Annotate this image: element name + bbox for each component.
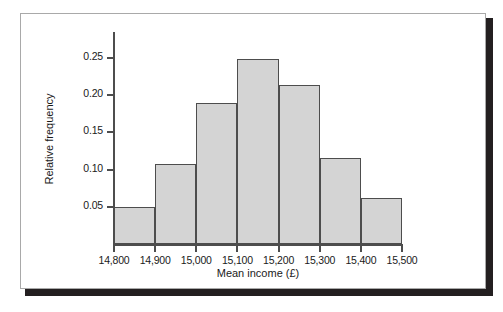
x-axis-tick: 15,500 [401,246,403,252]
histogram-bar [155,164,196,244]
x-axis-tick: 15,100 [236,246,238,252]
y-axis-tick: 0.10 [107,169,113,171]
x-axis-tick-label: 15,300 [304,254,335,266]
y-axis-tick-label: 0.15 [83,124,103,136]
histogram-bar [196,103,237,244]
y-axis-tick-label: 0.05 [83,199,103,211]
x-axis-tick-label: 14,800 [99,254,130,266]
y-axis-tick: 0.20 [107,94,113,96]
histogram-bar [361,198,402,244]
x-axis-tick: 14,800 [113,246,115,252]
x-axis-tick-label: 14,900 [140,254,171,266]
x-axis-tick-label: 15,000 [181,254,212,266]
y-axis-tick: 0.25 [107,57,113,59]
histogram-bar [114,207,155,244]
x-axis-tick: 15,300 [319,246,321,252]
x-axis-tick-label: 15,200 [263,254,294,266]
histogram-bar [279,85,320,244]
y-axis-tick: 0.15 [107,131,113,133]
x-axis-tick: 15,200 [278,246,280,252]
histogram-bar [320,158,361,244]
x-axis-tick-label: 15,500 [387,254,418,266]
x-axis-tick-label: 15,100 [222,254,253,266]
x-axis-tick: 15,000 [195,246,197,252]
x-axis-title: Mean income (£) [113,267,403,279]
x-axis-tick: 14,900 [154,246,156,252]
histogram-bar [237,59,278,244]
figure-frame: 0.050.100.150.200.25 14,80014,90015,0001… [20,13,486,289]
x-axis-tick-label: 15,400 [345,254,376,266]
y-axis-tick: 0.05 [107,206,113,208]
y-axis-tick-label: 0.25 [83,50,103,62]
y-axis-title: Relative frequency [43,93,55,184]
y-axis-tick-label: 0.20 [83,87,103,99]
x-axis-tick: 15,400 [360,246,362,252]
y-axis-tick-label: 0.10 [83,162,103,174]
histogram-plot-area: 0.050.100.150.200.25 14,80014,90015,0001… [21,14,487,290]
